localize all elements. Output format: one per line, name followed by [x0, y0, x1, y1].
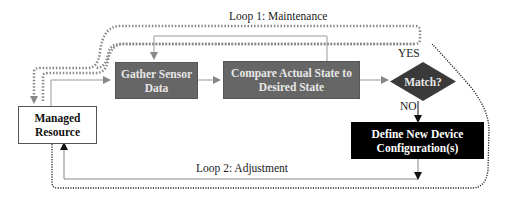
- loop1-label: Loop 1: Maintenance: [229, 10, 327, 22]
- match-decision-node: Match?: [390, 62, 456, 101]
- yes-label: YES: [398, 47, 420, 59]
- define-configuration-label: Define New Device Configuration(s): [363, 127, 473, 155]
- compare-state-label: Compare Actual State to Desired State: [229, 66, 354, 94]
- managed-resource-node: Managed Resource: [18, 106, 97, 144]
- feedback-loop-diagram: Loop 1: Maintenance Managed Resource Gat…: [0, 0, 515, 200]
- match-label: Match?: [390, 62, 456, 101]
- managed-resource-label: Managed Resource: [28, 111, 88, 139]
- resource-to-gather-path: [51, 80, 109, 106]
- define-configuration-node: Define New Device Configuration(s): [351, 122, 484, 159]
- gather-sensor-data-node: Gather Sensor Data: [115, 62, 198, 99]
- compare-state-node: Compare Actual State to Desired State: [223, 61, 360, 99]
- loop2-label: Loop 2: Adjustment: [196, 162, 288, 174]
- gather-sensor-data-label: Gather Sensor Data: [121, 67, 193, 95]
- no-label: NO: [400, 100, 417, 112]
